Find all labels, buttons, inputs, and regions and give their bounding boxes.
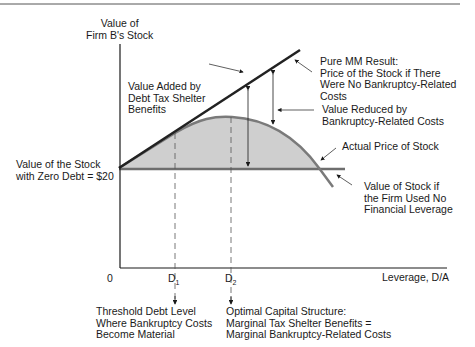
value-added-pointer-icon: [209, 64, 243, 72]
value-reduced-annotation: Value Reduced by Bankruptcy-Related Cost…: [322, 104, 444, 127]
no-leverage-annotation: Value of Stock if the Firm Used No Finan…: [364, 181, 453, 216]
optimal-annotation: Optimal Capital Structure: Marginal Tax …: [226, 306, 391, 341]
d2-subscript: 2: [233, 279, 237, 286]
zero-debt-label: Value of the Stock with Zero Debt = $20: [16, 159, 114, 182]
x-axis-label: Leverage, D/A: [382, 272, 449, 284]
d1-subscript: 1: [176, 279, 180, 286]
y-axis-label: Value of Firm B's Stock: [86, 18, 153, 41]
threshold-annotation: Threshold Debt Level Where Bankruptcy Co…: [96, 306, 212, 341]
actual-price-pointer-icon: [321, 148, 336, 160]
value-added-annotation: Value Added by Debt Tax Shelter Benefits: [128, 81, 205, 116]
d1-text: D: [168, 272, 176, 284]
d2-text: D: [225, 272, 233, 284]
d2-label: D2: [225, 273, 237, 289]
shaded-value-region: [119, 117, 319, 168]
pure-mm-annotation: Pure MM Result: Price of the Stock if Th…: [320, 56, 456, 102]
no-leverage-pointer-icon: [337, 175, 352, 185]
origin-label: 0: [107, 273, 113, 285]
d1-label: D1: [168, 273, 180, 289]
pure-mm-pointer-icon: [295, 60, 312, 72]
actual-price-annotation: Actual Price of Stock: [342, 141, 439, 153]
